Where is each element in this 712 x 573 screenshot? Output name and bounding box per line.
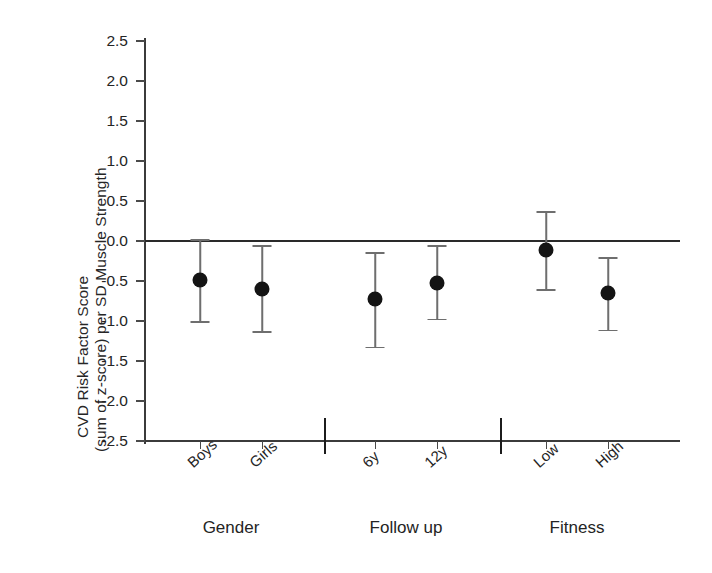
error-bar-cap-upper: [537, 211, 556, 213]
error-bar-cap-lower: [253, 331, 272, 333]
y-tick-label: -2.5: [86, 432, 128, 450]
error-bar-cap-upper: [599, 257, 618, 259]
x-tick-label: 6y: [359, 447, 382, 470]
y-tick-mark: [136, 120, 145, 121]
y-tick-mark: [136, 200, 145, 201]
y-tick-label: -2.0: [86, 392, 128, 410]
y-tick-mark: [136, 160, 145, 161]
error-bar-cap-lower: [366, 347, 385, 349]
y-tick-label: -1.0: [86, 312, 128, 330]
y-tick-label: -1.5: [86, 352, 128, 370]
y-tick-label: 1.0: [86, 152, 128, 170]
error-bar-cap-lower: [191, 321, 210, 323]
y-tick-label: 0.0: [86, 232, 128, 250]
y-tick-label: 1.5: [86, 112, 128, 130]
y-tick-mark: [136, 440, 145, 441]
group-separator-2: [500, 418, 502, 454]
x-tick-mark: [375, 441, 376, 449]
group-separator-1: [324, 418, 326, 454]
error-bar-cap-upper: [253, 245, 272, 247]
data-point-marker: [539, 242, 554, 257]
zero-reference-line: [145, 240, 680, 242]
group-label: Fitness: [550, 518, 605, 538]
data-point-marker: [601, 286, 616, 301]
error-bar-cap-lower: [599, 330, 618, 332]
y-tick-mark: [136, 360, 145, 361]
data-point-marker: [368, 292, 383, 307]
y-tick-mark: [136, 400, 145, 401]
error-bar-cap-upper: [366, 252, 385, 254]
y-tick-mark: [136, 320, 145, 321]
group-label: Follow up: [370, 518, 443, 538]
y-tick-mark: [136, 280, 145, 281]
group-label: Gender: [203, 518, 260, 538]
data-point-marker: [430, 275, 445, 290]
error-bar-cap-lower: [428, 319, 447, 321]
y-tick-label: 0.5: [86, 192, 128, 210]
data-point-marker: [193, 273, 208, 288]
y-tick-label: 2.5: [86, 32, 128, 50]
y-tick-label: 2.0: [86, 72, 128, 90]
y-tick-label: -0.5: [86, 272, 128, 290]
x-axis-line: [144, 440, 680, 442]
x-tick-label: Girls: [246, 437, 280, 470]
data-point-marker: [255, 282, 270, 297]
error-bar-cap-lower: [537, 289, 556, 291]
y-tick-mark: [136, 80, 145, 81]
error-bar-cap-upper: [191, 239, 210, 241]
error-bar-cap-upper: [428, 245, 447, 247]
x-tick-label: Low: [530, 440, 562, 471]
x-tick-label: 12y: [421, 442, 450, 471]
chart-figure: CVD Risk Factor Score (sum of z-score) p…: [0, 0, 712, 573]
y-tick-mark: [136, 40, 145, 41]
y-axis-title: CVD Risk Factor Score (sum of z-score) p…: [0, 0, 100, 460]
y-tick-mark: [136, 240, 145, 241]
x-tick-label: High: [592, 437, 626, 470]
